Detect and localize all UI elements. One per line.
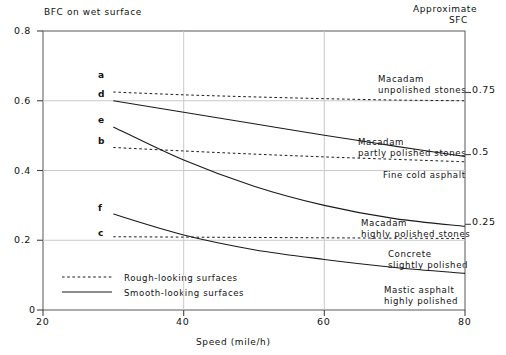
curve-d [113, 101, 465, 157]
curve-e [113, 127, 465, 226]
chart-canvas [0, 0, 506, 355]
curve-c [113, 237, 465, 239]
chart-root: { "titles": { "y_title": "BFC on wet sur… [0, 0, 506, 355]
y-axis-ticks [37, 31, 43, 310]
curve-a [113, 92, 465, 101]
curve-f [113, 214, 465, 273]
sfc-axis-ticks [465, 93, 471, 225]
x-axis-ticks [43, 310, 465, 316]
curve-b [113, 147, 465, 161]
